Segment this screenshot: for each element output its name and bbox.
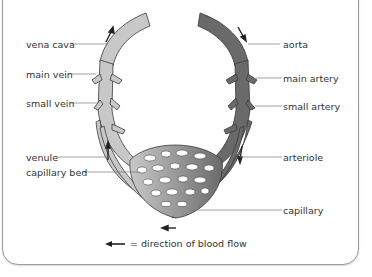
label-venule: venule: [26, 152, 58, 163]
label-capillary: capillary: [283, 205, 323, 216]
label-arteriole: arteriole: [283, 152, 323, 163]
label-vena-cava: vena cava: [26, 39, 75, 50]
label-main-vein: main vein: [26, 69, 73, 80]
arrow-left-icon: [105, 240, 125, 248]
label-aorta: aorta: [283, 39, 308, 50]
legend: = direction of blood flow: [105, 238, 247, 249]
label-small-vein: small vein: [26, 98, 74, 109]
label-small-artery: small artery: [283, 101, 340, 112]
label-capillary-bed: capillary bed: [26, 167, 87, 178]
label-main-artery: main artery: [283, 73, 339, 84]
legend-text: = direction of blood flow: [130, 238, 247, 249]
